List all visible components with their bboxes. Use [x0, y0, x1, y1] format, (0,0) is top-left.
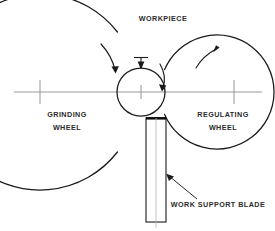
- work-support-blade-leader-arrowhead: [166, 174, 174, 181]
- grinding-wheel-label-line2: WHEEL: [53, 123, 81, 132]
- work-support-blade-label: WORK SUPPORT BLADE: [171, 200, 265, 209]
- grinding-wheel-rotation-arc: [101, 44, 115, 70]
- grinding-wheel-label-line1: GRINDING: [47, 110, 87, 119]
- workpiece-label: WORKPIECE: [139, 14, 187, 23]
- regulating-wheel-rotation-arc: [196, 49, 216, 68]
- grinding-wheel-outline: [0, 0, 117, 190]
- centerless-grinding-diagram: WORKPIECE GRINDING WHEEL REGULATING WHEE…: [0, 0, 275, 231]
- work-support-blade-leader-line: [169, 176, 197, 199]
- regulating-wheel-label-line2: WHEEL: [209, 123, 237, 132]
- regulating-wheel-rotation-arrowhead: [213, 45, 219, 52]
- diagram-canvas: WORKPIECE GRINDING WHEEL REGULATING WHEE…: [0, 0, 275, 231]
- regulating-wheel-label-line1: REGULATING: [197, 110, 248, 119]
- grinding-wheel-rotation-arrowhead: [111, 66, 119, 73]
- workpiece-rotation-arc: [160, 64, 164, 88]
